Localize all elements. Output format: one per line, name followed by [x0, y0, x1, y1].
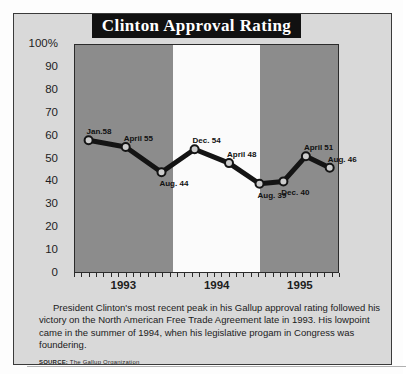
- x-minor-tick: [89, 273, 90, 277]
- x-minor-tick: [273, 273, 274, 277]
- data-point-label: Aug. 46: [328, 155, 357, 164]
- y-tick-label-80: 80: [18, 83, 58, 95]
- y-tick-label-40: 40: [18, 174, 58, 186]
- x-minor-tick: [302, 273, 303, 277]
- chart-caption: President Clinton's most recent peak in …: [39, 302, 391, 352]
- data-point-label: Dec. 40: [281, 188, 309, 197]
- source-text: The Gallup Organization: [70, 359, 140, 365]
- x-minor-tick: [133, 273, 134, 277]
- x-minor-tick: [214, 273, 215, 277]
- x-minor-tick: [155, 273, 156, 277]
- x-minor-tick: [184, 273, 185, 277]
- x-minor-tick: [317, 273, 318, 277]
- data-point-marker: [122, 143, 130, 151]
- chart-title-banner: Clinton Approval Rating: [92, 14, 301, 38]
- data-point-marker: [302, 152, 310, 160]
- chart-card: Clinton Approval Rating 100%908070605040…: [13, 13, 392, 365]
- caption-text: President Clinton's most recent peak in …: [39, 302, 380, 350]
- x-minor-tick: [287, 273, 288, 277]
- data-point-label: Jan.58: [87, 127, 112, 136]
- x-minor-tick: [111, 273, 112, 277]
- x-minor-tick: [126, 273, 127, 277]
- x-minor-tick: [280, 273, 281, 277]
- x-minor-tick: [229, 273, 230, 277]
- x-minor-tick: [103, 273, 104, 277]
- x-minor-tick: [74, 273, 75, 277]
- x-minor-tick: [140, 273, 141, 277]
- x-minor-tick: [199, 273, 200, 277]
- data-point-label: April 48: [227, 150, 256, 159]
- x-minor-tick: [243, 273, 244, 277]
- y-tick-label-60: 60: [18, 129, 58, 141]
- y-tick-label-0: 0: [18, 266, 58, 278]
- x-minor-tick: [221, 273, 222, 277]
- x-minor-tick: [236, 273, 237, 277]
- page-title: Clinton Approval Rating: [102, 16, 291, 36]
- data-point-label: Dec. 54: [193, 136, 221, 145]
- y-tick-label-30: 30: [18, 197, 58, 209]
- data-point-marker: [158, 168, 166, 176]
- data-point-marker: [326, 164, 334, 172]
- x-minor-tick: [170, 273, 171, 277]
- x-minor-tick: [148, 273, 149, 277]
- x-minor-tick: [207, 273, 208, 277]
- x-minor-tick: [324, 273, 325, 277]
- y-tick-label-70: 70: [18, 106, 58, 118]
- y-tick-label-90: 90: [18, 60, 58, 72]
- data-point-marker: [279, 177, 287, 185]
- data-point-marker: [85, 136, 93, 144]
- y-tick-label-50: 50: [18, 152, 58, 164]
- x-minor-tick: [332, 273, 333, 277]
- y-tick-label-100: 100%: [18, 37, 58, 49]
- y-tick-label-20: 20: [18, 220, 58, 232]
- x-minor-tick: [96, 273, 97, 277]
- data-point-marker: [191, 145, 199, 153]
- data-point-marker: [256, 180, 264, 188]
- data-point-label: April 51: [304, 143, 333, 152]
- x-minor-tick: [295, 273, 296, 277]
- footer-rule: [27, 366, 406, 367]
- source-line: SOURCE: The Gallup Organization: [39, 359, 139, 365]
- x-minor-tick: [81, 273, 82, 277]
- data-point-label: Aug. 44: [159, 179, 188, 188]
- data-point-label: April 55: [124, 134, 153, 143]
- x-minor-tick: [118, 273, 119, 277]
- source-label: SOURCE:: [39, 359, 68, 365]
- x-minor-tick: [251, 273, 252, 277]
- x-minor-tick: [265, 273, 266, 277]
- x-minor-tick: [310, 273, 311, 277]
- x-minor-tick: [177, 273, 178, 277]
- x-minor-tick: [162, 273, 163, 277]
- x-tick-label-1994: 1994: [187, 279, 247, 291]
- x-minor-tick: [339, 273, 340, 277]
- x-tick-label-1993: 1993: [93, 279, 153, 291]
- y-tick-label-10: 10: [18, 243, 58, 255]
- x-minor-tick: [192, 273, 193, 277]
- approval-line-series: [74, 44, 339, 273]
- x-tick-label-1995: 1995: [270, 279, 330, 291]
- data-point-marker: [225, 159, 233, 167]
- x-minor-tick: [258, 273, 259, 277]
